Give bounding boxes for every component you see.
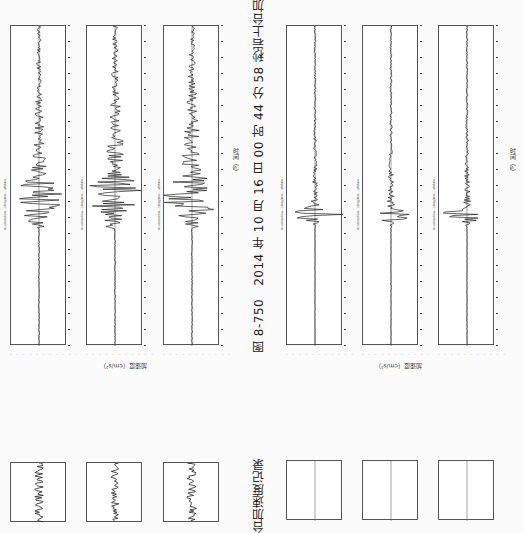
seismogram-panel-3 <box>163 25 219 345</box>
tick-mark <box>420 57 422 58</box>
tick-mark <box>420 265 422 266</box>
waveform-spike-1 <box>287 26 343 346</box>
tick-mark <box>420 201 422 202</box>
tick-mark <box>221 185 223 186</box>
tick-mark <box>221 265 223 266</box>
tick-mark <box>496 329 498 330</box>
waveform-wide-2 <box>87 26 143 346</box>
y-tick-labels-3: · · · · · · · · · · · <box>163 352 232 357</box>
tick-mark <box>496 297 498 298</box>
tick-mark <box>68 265 70 266</box>
tick-mark <box>144 137 146 138</box>
tick-mark <box>420 105 422 106</box>
waveform-spike-3 <box>439 26 495 346</box>
next-caption-fragment: 台加速度记录 <box>250 458 267 533</box>
tick-mark <box>144 169 146 170</box>
tick-mark <box>496 121 498 122</box>
time-axis-title-left: 时间（s） <box>231 148 240 175</box>
waveform-wide-3 <box>164 26 220 346</box>
tick-mark <box>68 105 70 106</box>
accel-axis-title-left: 加速度（cm/s²） <box>100 362 147 371</box>
tick-mark <box>144 313 146 314</box>
seismogram-panel-7 <box>10 462 66 522</box>
tick-mark <box>144 281 146 282</box>
seismogram-panel-4 <box>286 25 342 345</box>
panel-2-title: Acceleration ...(illegible)... aMAX=... <box>80 140 84 230</box>
tick-mark <box>68 249 70 250</box>
panel-1-title: Acceleration ...(illegible)... aMAX=... <box>3 140 7 230</box>
tick-mark <box>68 345 70 346</box>
tick-mark <box>144 345 146 346</box>
tick-mark <box>221 233 223 234</box>
tick-mark <box>496 169 498 170</box>
tick-mark <box>496 89 498 90</box>
tick-mark <box>420 329 422 330</box>
tick-mark <box>496 313 498 314</box>
tick-mark <box>221 169 223 170</box>
tick-mark <box>420 137 422 138</box>
y-tick-labels-6: · · · · · · · · · · · <box>438 352 507 357</box>
tick-mark <box>344 329 346 330</box>
tick-mark <box>420 249 422 250</box>
tick-mark <box>144 233 146 234</box>
tick-mark <box>144 89 146 90</box>
seismogram-panel-9 <box>163 462 219 522</box>
tick-mark <box>144 217 146 218</box>
tick-mark <box>344 105 346 106</box>
tick-mark <box>221 121 223 122</box>
tick-mark <box>68 201 70 202</box>
tick-mark <box>344 121 346 122</box>
panel-4-title: Acceleration ...(illegible)... aMAX=... <box>280 140 284 230</box>
tick-mark <box>68 137 70 138</box>
y-tick-labels-5: · · · · · · · · · · · <box>362 352 431 357</box>
seismogram-panel-12 <box>438 460 494 520</box>
tick-mark <box>420 25 422 26</box>
y-tick-labels-4: · · · · · · · · · · · <box>286 352 355 357</box>
tick-mark <box>144 265 146 266</box>
tick-mark <box>344 89 346 90</box>
tick-mark <box>221 137 223 138</box>
tick-mark <box>420 121 422 122</box>
tick-mark <box>344 73 346 74</box>
tick-mark <box>144 57 146 58</box>
tick-mark <box>68 329 70 330</box>
tick-mark <box>221 41 223 42</box>
tick-mark <box>420 313 422 314</box>
tick-mark <box>344 185 346 186</box>
tick-mark <box>144 185 146 186</box>
waveform-wide-1 <box>11 26 67 346</box>
tick-mark <box>496 345 498 346</box>
tick-mark <box>420 73 422 74</box>
tick-mark <box>144 153 146 154</box>
tick-mark <box>221 73 223 74</box>
tick-mark <box>221 249 223 250</box>
seismogram-panel-10 <box>286 460 342 520</box>
tick-mark <box>68 297 70 298</box>
tick-mark <box>221 345 223 346</box>
tick-mark <box>420 41 422 42</box>
tick-mark <box>496 265 498 266</box>
tick-mark <box>221 153 223 154</box>
tick-mark <box>496 201 498 202</box>
y-tick-labels-1: · · · · · · · · · · · <box>10 352 79 357</box>
tick-mark <box>344 297 346 298</box>
tick-mark <box>344 233 346 234</box>
tick-mark <box>344 153 346 154</box>
tick-mark <box>68 281 70 282</box>
tick-mark <box>144 329 146 330</box>
tick-mark <box>496 281 498 282</box>
figure-number: 图 8-750 <box>252 299 266 353</box>
tick-mark <box>344 169 346 170</box>
panel-5-title: Acceleration ...(illegible)... aMAX=... <box>356 140 360 230</box>
tick-mark <box>144 249 146 250</box>
tick-mark <box>496 249 498 250</box>
tick-mark <box>68 153 70 154</box>
tick-mark <box>68 217 70 218</box>
time-axis-title-right: 时间（s） <box>508 148 517 175</box>
tick-mark <box>420 233 422 234</box>
tick-mark <box>344 41 346 42</box>
tick-mark <box>144 297 146 298</box>
tick-mark <box>420 281 422 282</box>
tick-mark <box>344 281 346 282</box>
tick-mark <box>144 121 146 122</box>
